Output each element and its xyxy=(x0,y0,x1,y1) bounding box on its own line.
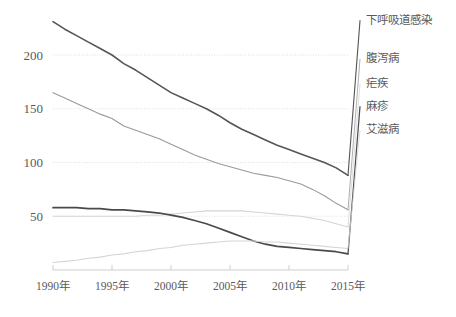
x-axis-labels: 1990年1995年2000年2005年2010年2015年 xyxy=(36,279,365,292)
legend-label-4[interactable]: 艾滋病 xyxy=(366,122,400,135)
x-tick-label-2015: 2015年 xyxy=(331,279,365,292)
legend: 下呼吸道感染腹泻病疟疾麻疹艾滋病 xyxy=(366,13,433,136)
x-tick-label-2005: 2005年 xyxy=(213,279,247,292)
line-chart: 50100150200 1990年1995年2000年2005年2010年201… xyxy=(0,0,456,317)
y-tick-label-50: 50 xyxy=(30,209,43,224)
y-tick-label-100: 100 xyxy=(24,155,44,170)
series-line-2 xyxy=(53,211,348,227)
y-tick-label-200: 200 xyxy=(24,48,44,63)
series-line-3 xyxy=(53,208,348,254)
series-line-4 xyxy=(53,241,348,263)
gridlines xyxy=(53,55,348,216)
legend-label-3[interactable]: 麻疹 xyxy=(366,99,389,112)
y-axis-labels: 50100150200 xyxy=(24,48,44,224)
legend-label-2[interactable]: 疟疾 xyxy=(366,76,389,89)
x-axis xyxy=(53,265,348,270)
legend-label-1[interactable]: 腹泻病 xyxy=(366,51,400,64)
series-lines xyxy=(53,22,348,263)
x-tick-label-2000: 2000年 xyxy=(154,279,188,292)
series-line-1 xyxy=(53,93,348,210)
series-line-0 xyxy=(53,22,348,176)
x-tick-label-2010: 2010年 xyxy=(272,279,306,292)
x-tick-label-1990: 1990年 xyxy=(36,279,70,292)
x-tick-label-1995: 1995年 xyxy=(95,279,129,292)
legend-leader-lines xyxy=(348,21,360,254)
y-tick-label-150: 150 xyxy=(24,101,44,116)
chart-svg: 50100150200 1990年1995年2000年2005年2010年201… xyxy=(0,0,456,317)
legend-label-0[interactable]: 下呼吸道感染 xyxy=(366,13,433,26)
